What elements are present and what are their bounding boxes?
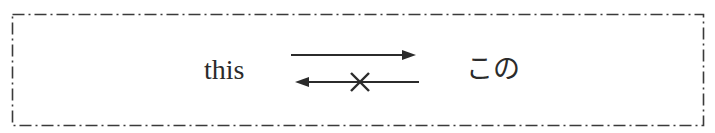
target-word: この [466, 55, 520, 82]
backward-arrow [295, 73, 419, 91]
forward-arrow [291, 50, 416, 60]
source-word: this [204, 56, 244, 84]
arrowhead-right-icon [402, 50, 416, 60]
dash-dot-border [13, 15, 704, 126]
diagram-canvas [0, 0, 715, 133]
arrowhead-left-icon [295, 77, 309, 87]
